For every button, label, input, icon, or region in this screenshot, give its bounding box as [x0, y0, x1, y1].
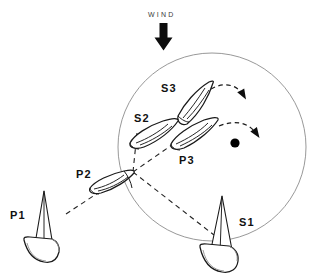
- boat-p2: [90, 170, 135, 194]
- boat-label-p3: P3: [179, 154, 195, 166]
- diagram-canvas: WIND P1 P2 P3 S1 S2 S3: [0, 0, 315, 280]
- boat-label-s2: S2: [134, 112, 150, 124]
- racing-mark: [230, 138, 239, 147]
- wind-label: WIND: [148, 11, 175, 18]
- boat-label-p2: P2: [76, 168, 92, 180]
- boat-p3: [171, 118, 218, 150]
- s1-to-p2-track: [133, 172, 214, 235]
- boat-label-p1: P1: [10, 209, 26, 221]
- boat-s1: [200, 196, 238, 272]
- boat-p1: [24, 191, 59, 262]
- sailing-diagram: WIND P1 P2 P3 S1 S2 S3: [0, 0, 315, 280]
- p3-turn-arrow: [219, 123, 260, 138]
- boat-label-s3: S3: [161, 82, 177, 94]
- boat-s3: [178, 81, 214, 124]
- wind-arrow-icon: [155, 23, 173, 51]
- boat-label-s1: S1: [239, 216, 255, 228]
- s3-turn-arrow: [211, 85, 246, 100]
